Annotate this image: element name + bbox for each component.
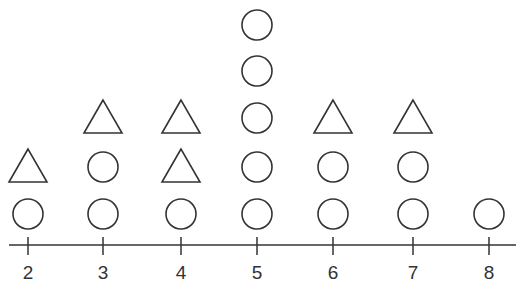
triangle-mark [394,100,432,133]
axis-labels: 2345678 [23,262,495,283]
axis-ticks [28,237,489,255]
triangle-mark [162,149,200,182]
circle-mark [242,152,272,182]
circle-mark [398,199,428,229]
circle-mark [242,103,272,133]
axis-label-7: 7 [408,262,419,283]
circle-mark [13,199,43,229]
circle-mark [242,199,272,229]
triangle-mark [9,149,47,182]
triangle-mark [314,100,352,133]
axis-label-6: 6 [328,262,339,283]
dot-plot: 2345678 [0,0,531,297]
circle-mark [242,10,272,40]
circle-mark [166,199,196,229]
axis-label-2: 2 [23,262,34,283]
triangle-mark [84,100,122,133]
axis-label-8: 8 [484,262,495,283]
circle-mark [398,152,428,182]
data-marks [9,10,504,229]
triangle-mark [162,100,200,133]
circle-mark [242,56,272,86]
axis-label-4: 4 [176,262,187,283]
circle-mark [88,199,118,229]
axis-label-5: 5 [252,262,263,283]
circle-mark [318,199,348,229]
circle-mark [318,152,348,182]
circle-mark [88,152,118,182]
circle-mark [474,199,504,229]
axis-label-3: 3 [98,262,109,283]
